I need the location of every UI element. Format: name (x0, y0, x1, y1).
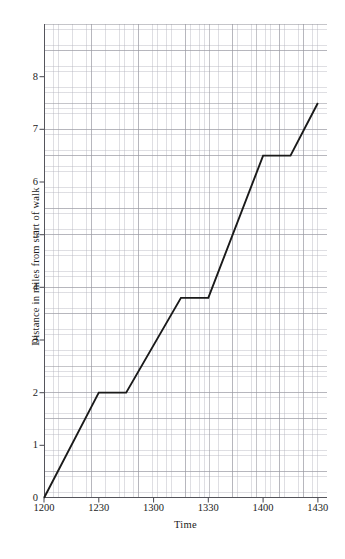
distance-walked-line (44, 103, 318, 498)
distance-time-chart: 012345678 120012301300133014001430 Time … (0, 0, 345, 559)
x-tick-label: 1300 (143, 503, 164, 514)
x-axis-title: Time (44, 519, 327, 530)
x-tick-label: 1400 (253, 503, 274, 514)
chart-data-layer (0, 0, 345, 559)
x-axis-tick-marks (44, 498, 318, 503)
x-tick-label: 1430 (307, 503, 328, 514)
x-tick-label: 1230 (88, 503, 109, 514)
y-tick-label: 1 (12, 440, 38, 451)
y-tick-label: 8 (12, 71, 38, 82)
y-axis-title: Distance in miles from start of walk (30, 127, 41, 407)
x-tick-label: 1330 (198, 503, 219, 514)
x-tick-label: 1200 (34, 503, 55, 514)
